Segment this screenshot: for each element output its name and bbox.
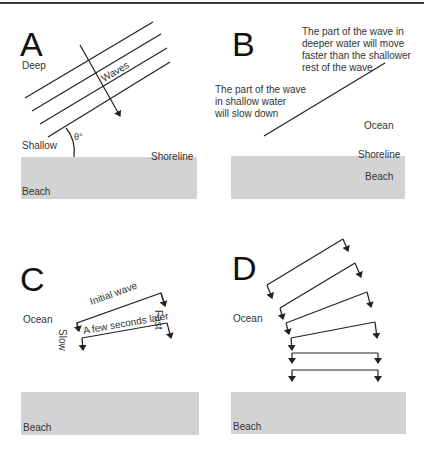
label-angle-theta: θ° — [74, 132, 83, 143]
label-ocean-b: Ocean — [364, 120, 393, 131]
wave-crest-2 — [32, 34, 161, 111]
label-beach-a: Beach — [22, 186, 50, 197]
label-shoreline-a: Shoreline — [151, 151, 193, 162]
note-deep-water: The part of the wave in deeper water wil… — [302, 26, 411, 74]
label-ocean-d: Ocean — [233, 313, 262, 324]
label-ocean-c: Ocean — [23, 314, 52, 325]
panel-label-c: C — [20, 262, 45, 296]
label-slow: Slow — [57, 329, 68, 351]
note-shallow-water: The part of the wave in shallow water wi… — [215, 84, 306, 120]
panel-label-a: A — [20, 27, 43, 61]
label-beach-b: Beach — [365, 171, 393, 182]
label-shoreline-b: Shoreline — [358, 149, 400, 160]
panel-label-b: B — [232, 27, 255, 61]
label-beach-c: Beach — [23, 422, 51, 433]
label-beach-d: Beach — [233, 421, 261, 432]
label-deep: Deep — [22, 60, 46, 71]
label-fast: Fast — [153, 310, 164, 329]
label-shallow: Shallow — [22, 140, 57, 151]
panel-label-d: D — [232, 251, 257, 285]
